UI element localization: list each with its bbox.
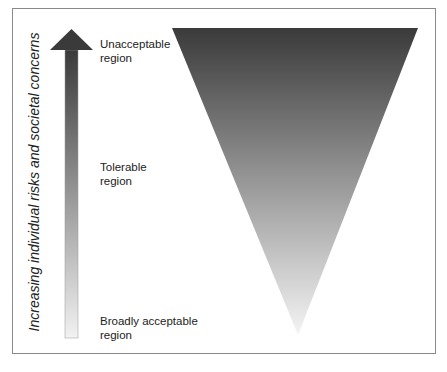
axis-label: Increasing individual risks and societal…: [26, 33, 42, 332]
diagram-shapes: [0, 0, 447, 372]
up-arrow-icon: [50, 29, 93, 338]
region-tolerable: Tolerable region: [100, 160, 147, 188]
risk-triangle: [172, 28, 418, 335]
region-unacceptable: Unacceptable region: [100, 37, 170, 65]
region-broadly-acceptable: Broadly acceptable region: [100, 314, 198, 342]
